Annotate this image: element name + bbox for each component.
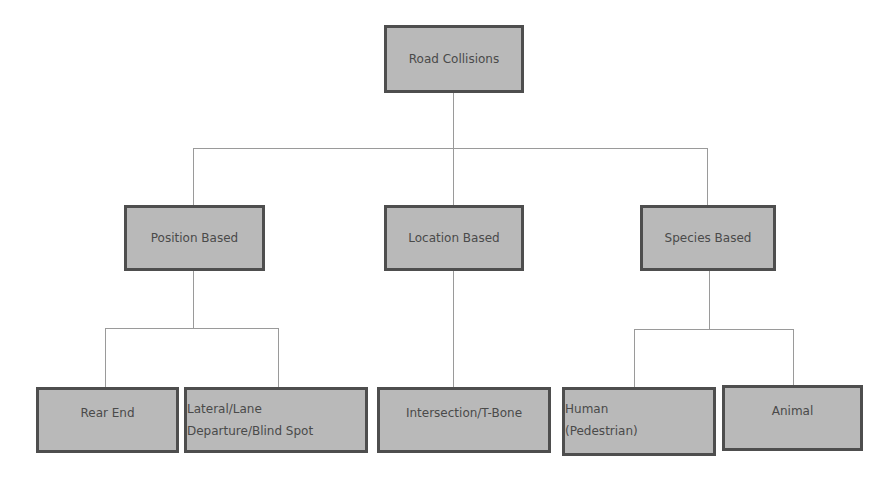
node-label: Road Collisions bbox=[409, 48, 499, 70]
connector-species-down bbox=[709, 270, 710, 329]
connector-to-rear-end bbox=[105, 328, 106, 387]
road-collisions-diagram: Road Collisions Position Based Location … bbox=[0, 0, 892, 485]
node-human-pedestrian: Human (Pedestrian) bbox=[562, 387, 716, 456]
connector-position-bar bbox=[105, 328, 279, 329]
connector-species-bar bbox=[634, 329, 794, 330]
connector-to-animal bbox=[793, 329, 794, 385]
connector-to-lateral bbox=[278, 328, 279, 387]
node-species-based: Species Based bbox=[640, 205, 776, 271]
connector-level1-bar bbox=[193, 148, 708, 149]
node-label: Intersection/T-Bone bbox=[406, 402, 522, 424]
connector-to-human bbox=[634, 329, 635, 387]
connector-position-down bbox=[193, 270, 194, 329]
node-label: Rear End bbox=[80, 402, 134, 424]
node-label: Animal bbox=[772, 400, 814, 422]
node-position-based: Position Based bbox=[124, 205, 265, 271]
connector-to-location bbox=[453, 148, 454, 205]
node-label-line-2: Departure/Blind Spot bbox=[187, 420, 313, 442]
node-label-line-2: (Pedestrian) bbox=[565, 420, 638, 442]
node-label-line-1: Lateral/Lane bbox=[187, 398, 262, 420]
node-intersection-t-bone: Intersection/T-Bone bbox=[377, 387, 551, 453]
node-label: Position Based bbox=[151, 227, 238, 249]
node-animal: Animal bbox=[722, 385, 863, 451]
connector-to-position bbox=[193, 148, 194, 205]
node-road-collisions: Road Collisions bbox=[384, 25, 524, 93]
connector-root-down bbox=[453, 92, 454, 149]
node-lateral-lane-departure: Lateral/Lane Departure/Blind Spot bbox=[184, 387, 368, 453]
node-label: Species Based bbox=[665, 227, 752, 249]
node-location-based: Location Based bbox=[384, 205, 524, 271]
node-label: Location Based bbox=[408, 227, 499, 249]
node-label-line-1: Human bbox=[565, 398, 608, 420]
node-rear-end: Rear End bbox=[36, 387, 179, 453]
connector-to-species bbox=[707, 148, 708, 205]
connector-location-down bbox=[453, 270, 454, 387]
